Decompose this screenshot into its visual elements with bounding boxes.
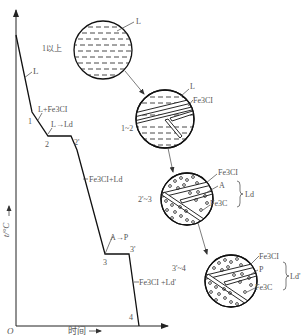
circle4-phase-Fe3C: Fe3C [255,283,272,292]
circle4-group-label: Ld' [290,272,301,281]
y-axis-label: t/°C [1,222,11,238]
point-3: 3 [103,258,107,267]
circle2-range-label: 1~2 [121,124,133,133]
point-3-prime: 3' [130,245,136,254]
x-axis-label: 时间 [68,325,86,336]
point-2-prime: 2' [74,138,80,147]
label-primary: L+Fe3CI [38,105,68,114]
circle4-range-label: 3'~4 [172,264,186,273]
circle2-phase-Fe3CI: Fe3CI [193,96,213,105]
label-after-eutectic: Fe3CI+Ld [89,175,122,184]
arrow-2-to-3 [168,148,173,172]
cooling-curve-diagram: t/°C O 时间 L L+Fe3CI 1 L→Ld 2 2' Fe3CI+Ld… [0,0,305,336]
circle3-brace [237,181,243,207]
label-liquid: L [33,66,39,76]
circle4-phase-P: P [259,265,264,274]
label-final: Fe3CI +Ld' [139,278,176,287]
circle2-phase-L: L [190,82,195,91]
microstructure-1: L 1以上 [42,17,141,79]
microstructure-4: Fe3CI P Fe3C Ld' 3'~4 [172,252,301,307]
arrow-3-to-4 [198,223,207,254]
circle1-phase-L: L [136,17,141,26]
circle3-phase-A: A [219,181,225,190]
circle3-phase-Fe3C: Fe3C [210,199,227,208]
label-eutectoid-reaction: A→P [110,233,129,242]
y-axis-label-group: t/°C [1,222,11,238]
circle3-phase-Fe3CI: Fe3CI [218,168,238,177]
leader-primary [38,113,42,120]
point-1: 1 [28,117,32,126]
microstructure-3: Fe3CI A Fe3C Ld 2'~3 [138,168,254,225]
circle4-phase-Fe3CI: Fe3CI [259,252,279,261]
circle3-group-label: Ld [245,190,254,199]
microstructure-2: L Fe3CI 1~2 [121,82,213,148]
origin-label: O [7,326,14,336]
label-eutectic-reaction: L→Ld [51,120,73,129]
point-4: 4 [129,313,133,322]
arrow-1-to-2 [125,71,144,94]
circle4-brace [283,262,289,290]
circle3-range-label: 2'~3 [138,195,152,204]
leader-liquid [24,72,32,78]
point-2: 2 [45,140,49,149]
circle1-range-label: 1以上 [42,44,62,53]
